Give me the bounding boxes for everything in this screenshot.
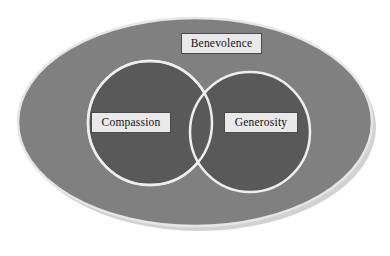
label-benevolence[interactable]: Benevolence [181,33,262,54]
label-compassion[interactable]: Compassion [91,112,171,133]
label-generosity-text: Generosity [235,117,287,129]
venn-diagram: Benevolence Compassion Generosity [0,0,390,256]
label-compassion-text: Compassion [102,117,161,129]
label-benevolence-text: Benevolence [191,38,253,50]
label-generosity[interactable]: Generosity [224,112,298,133]
